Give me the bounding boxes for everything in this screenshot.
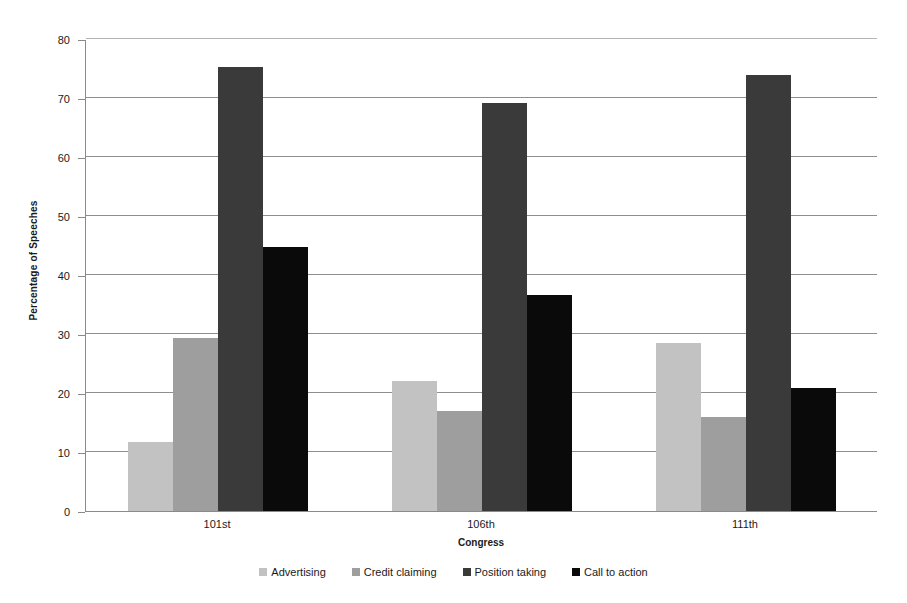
- chart-legend: AdvertisingCredit claimingPosition takin…: [0, 566, 907, 578]
- bar: [701, 417, 746, 511]
- y-tick-label: 0: [18, 506, 70, 518]
- y-tick-mark: [78, 512, 85, 513]
- legend-label: Credit claiming: [364, 566, 437, 578]
- y-tick-label: 60: [18, 152, 70, 164]
- y-tick-mark: [78, 217, 85, 218]
- legend-swatch-icon: [352, 568, 360, 576]
- legend-item: Call to action: [572, 566, 648, 578]
- y-tick-mark: [78, 453, 85, 454]
- bar: [437, 411, 482, 511]
- x-axis-title: Congress: [85, 537, 877, 548]
- legend-label: Call to action: [584, 566, 648, 578]
- x-tick-label: 106th: [467, 518, 495, 530]
- bar: [656, 343, 701, 511]
- legend-item: Position taking: [463, 566, 547, 578]
- gridline: [86, 38, 877, 39]
- y-tick-mark: [78, 335, 85, 336]
- bar: [392, 381, 437, 511]
- y-tick-mark: [78, 99, 85, 100]
- y-tick-mark: [78, 158, 85, 159]
- bar: [263, 247, 308, 511]
- bar: [173, 338, 218, 511]
- y-tick-label: 10: [18, 447, 70, 459]
- y-tick-label: 20: [18, 388, 70, 400]
- legend-swatch-icon: [463, 568, 471, 576]
- bar: [482, 103, 527, 511]
- y-tick-label: 40: [18, 270, 70, 282]
- bar: [128, 442, 173, 511]
- plot-area: [85, 40, 877, 512]
- legend-label: Advertising: [271, 566, 325, 578]
- bar: [791, 388, 836, 511]
- y-tick-mark: [78, 40, 85, 41]
- bar-group: [656, 40, 836, 511]
- y-tick-label: 80: [18, 34, 70, 46]
- y-tick-label: 70: [18, 93, 70, 105]
- bar-group: [128, 40, 308, 511]
- y-tick-label: 30: [18, 329, 70, 341]
- legend-item: Credit claiming: [352, 566, 437, 578]
- bars-layer: [86, 40, 877, 511]
- x-tick-label: 111th: [732, 518, 758, 530]
- legend-label: Position taking: [475, 566, 547, 578]
- legend-item: Advertising: [259, 566, 325, 578]
- bar-group: [392, 40, 572, 511]
- bar: [527, 295, 572, 511]
- bar: [218, 67, 263, 511]
- bar-chart: Percentage of Speeches 01020304050607080…: [0, 0, 907, 603]
- legend-swatch-icon: [259, 568, 267, 576]
- legend-swatch-icon: [572, 568, 580, 576]
- y-tick-label: 50: [18, 211, 70, 223]
- y-tick-mark: [78, 394, 85, 395]
- y-tick-mark: [78, 276, 85, 277]
- x-tick-label: 101st: [204, 518, 231, 530]
- bar: [746, 75, 791, 511]
